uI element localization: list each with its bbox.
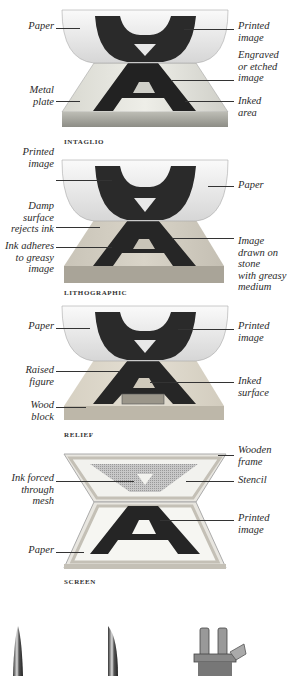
caption-lithographic: LITHOGRAPHIC <box>64 289 127 297</box>
leader-line <box>218 455 234 456</box>
label-stencil: Stencil <box>238 474 267 486</box>
label-inked-area: Inked area <box>238 95 261 118</box>
leader-line <box>56 28 80 29</box>
label-inked-surface: Inked surface <box>238 375 269 398</box>
leader-line <box>56 407 86 408</box>
label-ink-adheres: Ink adheres to greasy image <box>5 240 54 275</box>
leader-line <box>160 520 234 521</box>
label-damp-surface: Damp surface rejects ink <box>11 200 54 235</box>
label-raised-figure: Raised figure <box>25 364 54 387</box>
label-wood-block: Wood block <box>30 399 54 422</box>
label-paper: Paper <box>28 20 54 32</box>
label-wooden-frame: Wooden frame <box>238 444 271 467</box>
intaglio-panel: Paper Printed image Engraved or etched i… <box>0 0 290 140</box>
label-printed-image: Printed image <box>23 146 55 169</box>
leader-line <box>172 238 234 239</box>
screen-panel: Wooden frame Ink forced through mesh Ste… <box>0 440 290 590</box>
leader-line <box>178 329 234 330</box>
leader-line <box>150 382 234 383</box>
label-paper: Paper <box>28 320 54 332</box>
leader-line <box>56 371 120 372</box>
tools-row <box>0 620 290 676</box>
label-image-drawn: Image drawn on stone with greasy medium <box>238 235 286 293</box>
leader-line <box>185 101 234 102</box>
leader-line <box>172 80 234 81</box>
leader-line <box>56 328 90 329</box>
leader-line <box>56 227 100 228</box>
caption-screen: SCREEN <box>64 578 96 586</box>
scraper-tool-icon <box>100 620 124 676</box>
label-printed-image: Printed image <box>238 20 270 43</box>
label-paper: Paper <box>28 544 54 556</box>
leader-line <box>208 186 234 187</box>
leader-line <box>56 481 134 482</box>
label-printed-image: Printed image <box>238 512 270 535</box>
label-paper: Paper <box>238 179 264 191</box>
label-printed-image: Printed image <box>238 320 270 343</box>
caption-relief: RELIEF <box>64 431 94 439</box>
relief-panel: Paper Printed image Raised figure Inked … <box>0 300 290 440</box>
leader-line <box>56 180 112 181</box>
lithographic-panel: Printed image Paper Damp surface rejects… <box>0 150 290 300</box>
leader-line <box>186 481 234 482</box>
caption-intaglio: INTAGLIO <box>64 138 104 146</box>
leader-line <box>56 247 112 248</box>
label-ink-forced: Ink forced through mesh <box>12 472 54 507</box>
leader-line <box>56 101 80 102</box>
clamp-tool-icon <box>190 620 250 676</box>
leader-line <box>56 552 84 553</box>
label-metal-plate: Metal plate <box>30 84 55 107</box>
label-engraved-image: Engraved or etched image <box>238 49 279 84</box>
burin-tool-icon <box>8 620 28 676</box>
leader-line <box>184 29 234 30</box>
